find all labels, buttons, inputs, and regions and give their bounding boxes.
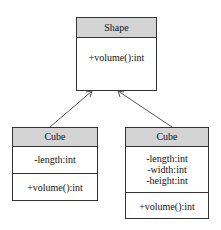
class-cube-right: Cube -length:int -width:int -height:int … bbox=[125, 127, 209, 219]
class-cube-left-attributes: -length:int bbox=[13, 147, 97, 173]
method: +volume():int bbox=[13, 182, 97, 193]
class-cube-left: Cube -length:int +volume():int bbox=[12, 127, 98, 201]
attribute: -length:int bbox=[13, 154, 97, 165]
attribute: -length:int bbox=[126, 153, 208, 164]
class-cube-right-methods: +volume():int bbox=[126, 192, 208, 212]
class-shape-method: +volume():int bbox=[77, 38, 156, 63]
class-cube-left-methods: +volume():int bbox=[13, 173, 97, 193]
method: +volume():int bbox=[126, 201, 208, 212]
attribute: -width:int bbox=[126, 164, 208, 175]
class-shape: Shape +volume():int bbox=[76, 17, 157, 91]
class-cube-left-name: Cube bbox=[13, 128, 97, 147]
class-shape-name: Shape bbox=[77, 18, 156, 38]
class-cube-right-name: Cube bbox=[126, 128, 208, 147]
attribute: -height:int bbox=[126, 175, 208, 186]
class-cube-right-attributes: -length:int -width:int -height:int bbox=[126, 147, 208, 192]
